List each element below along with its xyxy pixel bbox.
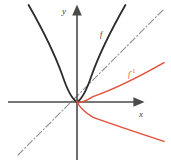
- x-axis-label: x: [139, 110, 143, 119]
- curve-f-inverse-label-exponent: -1: [130, 68, 135, 74]
- identity-line-y-equals-x: [18, 9, 164, 155]
- curve-f-inverse-label: f-1: [128, 68, 135, 79]
- function-inverse-figure: y x f f-1: [0, 0, 171, 164]
- plot-canvas: [0, 0, 171, 164]
- y-axis-label: y: [62, 7, 66, 16]
- curve-f-label: f: [100, 31, 102, 39]
